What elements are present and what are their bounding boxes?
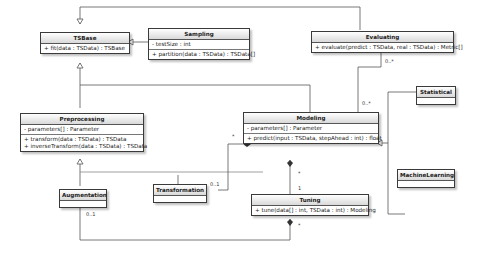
class-name: Statistical [417,87,455,98]
multiplicity-label: 0..1 [210,181,220,187]
multiplicity-label: 0..1 [86,211,96,217]
class-name: Sampling [149,29,249,40]
multiplicity-label: * [298,222,301,228]
class-tuning[interactable]: Tuning + tune(data[] : int, TSData : int… [251,194,369,216]
class-name: MachineLearning [398,170,454,181]
class-statistical[interactable]: Statistical [416,86,456,105]
multiplicity-label: 1 [298,185,301,191]
operation: + predict(input : TSData, stepAhead : in… [247,135,375,142]
attribute: - testSize : int [152,41,246,48]
operation: + transform(data : TSData) : TSData [24,136,140,143]
class-evaluating[interactable]: Evaluating + evaluate(predict : TSData, … [311,31,454,53]
class-name: Augmentation [60,190,106,201]
operation: + evaluate(predict : TSData, real : TSDa… [315,44,450,51]
attribute: - parameters[] : Parameter [24,126,140,133]
class-machinelearning[interactable]: MachineLearning [397,169,455,188]
class-sampling[interactable]: Sampling - testSize : int + partition(da… [148,28,250,60]
multiplicity-label: 0..* [385,58,394,64]
multiplicity-label: * [298,170,301,176]
class-name: Transformation [154,185,206,196]
multiplicity-label: * [232,133,235,139]
multiplicity-label: 0..* [362,100,371,106]
attribute: - parameters[] : Parameter [247,125,375,132]
class-name: Tuning [252,195,368,206]
operation: + partition(data : TSData) : TSData[] [152,51,246,58]
class-name: Evaluating [312,32,453,43]
class-modeling[interactable]: Modeling - parameters[] : Parameter + pr… [243,112,379,144]
operation: + inverseTransform(data : TSData) : TSDa… [24,143,140,150]
class-name: TSBase [41,33,129,44]
operation: + tune(data[] : int, TSData : int) : Mod… [255,207,365,214]
class-name: Preprocessing [21,114,143,125]
class-name: Modeling [244,113,378,124]
class-tsbase[interactable]: TSBase + fit(data : TSData) : TSBase [40,32,130,54]
class-preprocessing[interactable]: Preprocessing - parameters[] : Parameter… [20,113,144,152]
operation: + fit(data : TSData) : TSBase [44,45,126,52]
class-augmentation[interactable]: Augmentation [59,189,107,208]
class-transformation[interactable]: Transformation [153,184,207,203]
